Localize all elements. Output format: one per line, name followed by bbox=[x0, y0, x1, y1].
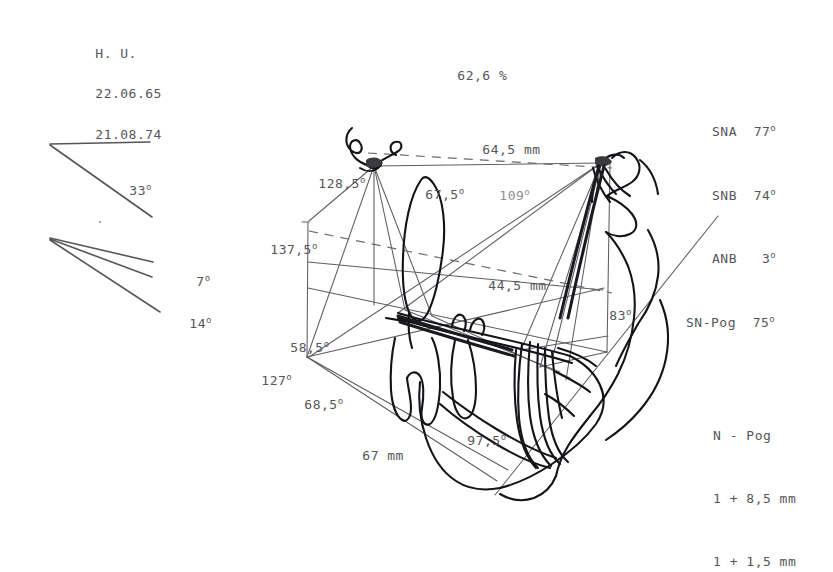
distance-label-64-5mm: 64,5 mm bbox=[449, 122, 541, 179]
measurement-value: 74 bbox=[754, 188, 771, 203]
patient-record-date: 21.08.74 bbox=[95, 127, 162, 142]
patient-initials: H. U. bbox=[95, 46, 137, 61]
measurement-name: ANB bbox=[712, 251, 737, 266]
measurements-top-panel: SNA 77o SNB 74o ANB 3o SN-Pog 75o bbox=[712, 79, 776, 375]
measurement-row: SNA 77o bbox=[712, 121, 776, 142]
measurement-row: SNB 74o bbox=[712, 185, 776, 206]
measurement-name: SNA bbox=[712, 124, 737, 139]
angle-label-97-5: 97,5o bbox=[434, 412, 506, 470]
measurements-bottom-panel: N - Pog 1 + 8,5 mm 1 + 1,5 mm bbox=[713, 383, 796, 572]
angle-key-upper-label: 33o bbox=[96, 162, 151, 220]
angle-label-83: 83o bbox=[576, 287, 631, 345]
npog-lower-incisor: 1 + 1,5 mm bbox=[713, 551, 796, 572]
npog-upper-incisor: 1 + 8,5 mm bbox=[713, 488, 796, 509]
angle-label-128-5: 128,5o bbox=[285, 155, 365, 213]
facial-percent-label: 62,6 % bbox=[424, 48, 507, 105]
distance-label-44-5mm: 44,5 mm bbox=[455, 258, 547, 315]
angle-label-68-5: 68,5o bbox=[271, 376, 343, 434]
distance-label-67mm: 67 mm bbox=[329, 428, 404, 485]
angle-key-lower-label: 14o bbox=[156, 295, 211, 353]
measurement-row: SN-Pog 75o bbox=[686, 312, 776, 333]
patient-block: H. U. 22.06.65 21.08.74 bbox=[62, 24, 162, 165]
measurement-row: ANB 3o bbox=[712, 248, 776, 269]
measurement-value: 77 bbox=[754, 124, 771, 139]
measurement-name: SNB bbox=[712, 188, 737, 203]
patient-birth-date: 22.06.65 bbox=[95, 86, 162, 101]
measurement-name: SN-Pog bbox=[686, 315, 736, 330]
npog-title: N - Pog bbox=[713, 425, 796, 446]
angle-label-137-5: 137,5o bbox=[237, 221, 317, 279]
measurement-value: 75 bbox=[753, 315, 770, 330]
